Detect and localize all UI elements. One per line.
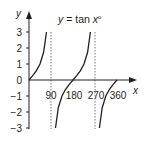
svg-text:3: 3 (16, 27, 22, 38)
curve-branch-3 (99, 80, 117, 128)
svg-text:−3: −3 (11, 123, 23, 134)
svg-text:270: 270 (88, 90, 105, 101)
x-tick-labels: 90 180 270 360 (45, 90, 126, 101)
y-tick-labels: 3 2 1 0 −1 −2 −3 (11, 27, 23, 134)
curve-branch-1 (29, 32, 47, 80)
svg-text:2: 2 (16, 43, 22, 54)
tan-chart: 3 2 1 0 −1 −2 −3 90 180 270 360 y x y = … (0, 0, 144, 141)
svg-text:360: 360 (110, 90, 127, 101)
x-axis-label: x (132, 85, 139, 96)
y-axis-label: y (15, 8, 22, 19)
svg-text:0: 0 (16, 75, 22, 86)
chart-title: y = tan xo (57, 13, 102, 25)
svg-text:−2: −2 (11, 107, 23, 118)
svg-text:1: 1 (16, 59, 22, 70)
x-axis-arrow-icon (129, 77, 137, 83)
svg-text:180: 180 (66, 90, 83, 101)
y-axis-arrow-icon (26, 11, 32, 19)
svg-text:−1: −1 (11, 91, 23, 102)
